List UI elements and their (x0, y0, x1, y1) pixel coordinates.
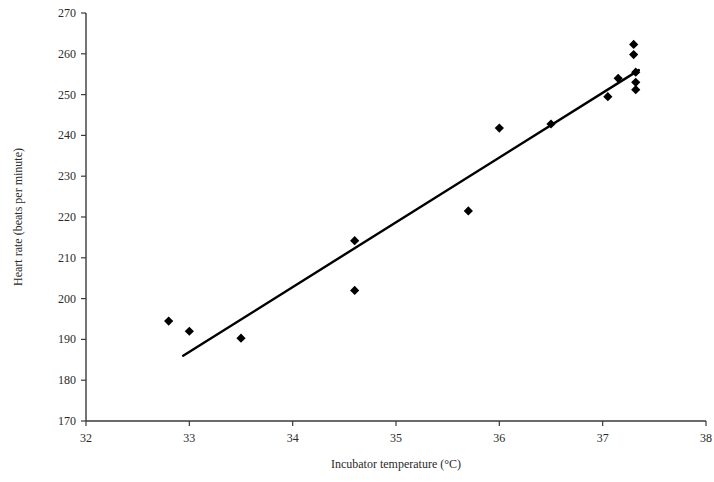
y-tick-label: 230 (58, 169, 76, 183)
data-point-marker (464, 206, 473, 215)
x-tick-label: 33 (183, 431, 195, 445)
plot-area: 170180190200210220230240250260270 323334… (58, 6, 712, 445)
y-tick-label: 190 (58, 332, 76, 346)
data-point-marker (603, 92, 612, 101)
y-tick-label: 210 (58, 251, 76, 265)
y-axis-ticks: 170180190200210220230240250260270 (58, 6, 86, 428)
data-point-group (164, 40, 640, 343)
x-axis-ticks: 32333435363738 (80, 421, 712, 445)
chart-canvas: 170180190200210220230240250260270 323334… (0, 0, 714, 482)
data-point-marker (495, 123, 504, 132)
data-point-marker (236, 334, 245, 343)
x-tick-label: 34 (287, 431, 299, 445)
x-tick-label: 38 (700, 431, 712, 445)
data-point-marker (631, 85, 640, 94)
data-point-marker (185, 327, 194, 336)
x-axis-title: Incubator temperature (°C) (331, 457, 461, 471)
x-tick-label: 35 (390, 431, 402, 445)
y-tick-label: 260 (58, 47, 76, 61)
y-tick-label: 170 (58, 414, 76, 428)
y-tick-label: 250 (58, 88, 76, 102)
data-point-marker (629, 40, 638, 49)
y-tick-label: 200 (58, 292, 76, 306)
y-axis-title: Heart rate (beats per minute) (11, 148, 25, 286)
x-tick-label: 37 (597, 431, 609, 445)
y-tick-label: 180 (58, 373, 76, 387)
scatter-chart: 170180190200210220230240250260270 323334… (0, 0, 714, 482)
y-tick-label: 270 (58, 6, 76, 20)
y-tick-label: 240 (58, 128, 76, 142)
data-point-marker (629, 50, 638, 59)
trend-line (183, 70, 639, 356)
data-point-marker (350, 286, 359, 295)
data-point-marker (164, 316, 173, 325)
x-tick-label: 36 (493, 431, 505, 445)
data-point-marker (350, 236, 359, 245)
x-tick-label: 32 (80, 431, 92, 445)
y-tick-label: 220 (58, 210, 76, 224)
